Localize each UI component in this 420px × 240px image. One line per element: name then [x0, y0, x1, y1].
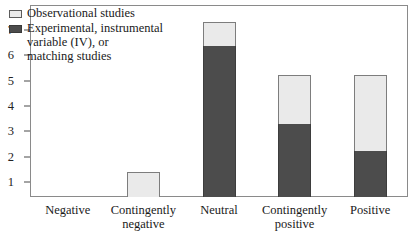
legend-label-line: matching studies	[27, 49, 163, 63]
x-tick-label: Contingentlypositive	[262, 203, 327, 231]
legend-label-line: variable (IV), or	[27, 35, 163, 49]
x-tick-label-line: Neutral	[200, 203, 237, 217]
legend-label-line: Observational studies	[27, 6, 135, 20]
x-tick-label: Neutral	[200, 203, 237, 217]
x-tick-label-line: Contingently	[111, 203, 176, 217]
legend-item: Observational studies	[9, 6, 199, 20]
legend-label-line: Experimental, instrumental	[27, 21, 163, 35]
legend-label: Experimental, instrumentalvariable (IV),…	[27, 21, 163, 63]
y-tick-label: 5	[8, 74, 14, 87]
bar-neutral	[203, 22, 236, 197]
x-tick-label-line: Positive	[350, 203, 390, 217]
stacked-bar-chart: 7654321 NegativeContingentlynegativeNeut…	[0, 0, 420, 240]
bar-segment-observational	[127, 172, 160, 197]
bar-segment-observational	[354, 75, 387, 151]
legend-label: Observational studies	[27, 6, 135, 20]
bar-contingently-positive	[278, 75, 311, 197]
bar-segment-experimental	[278, 124, 311, 197]
x-tick-label-line: negative	[111, 217, 176, 231]
y-tick-label: 4	[8, 100, 14, 113]
x-tick-label: Positive	[350, 203, 390, 217]
x-tick-label-line: positive	[262, 217, 327, 231]
bar-segment-experimental	[354, 151, 387, 197]
legend-item: Experimental, instrumentalvariable (IV),…	[9, 21, 199, 63]
chart-legend: Observational studiesExperimental, instr…	[9, 6, 199, 64]
y-tick-label: 2	[8, 150, 14, 163]
bar-positive	[354, 75, 387, 197]
x-tick-label-line: Negative	[45, 203, 90, 217]
bar-contingently-negative	[127, 172, 160, 197]
legend-swatch-light	[9, 10, 22, 18]
x-tick-label: Contingentlynegative	[111, 203, 176, 231]
bar-segment-observational	[203, 22, 236, 46]
x-tick-label-line: Contingently	[262, 203, 327, 217]
y-tick-label: 3	[8, 125, 14, 138]
bar-segment-observational	[278, 75, 311, 123]
y-tick-label: 1	[8, 176, 14, 189]
bar-segment-experimental	[203, 46, 236, 197]
x-axis: NegativeContingentlynegativeNeutralConti…	[30, 199, 408, 239]
legend-swatch-dark	[9, 25, 22, 33]
x-tick-label: Negative	[45, 203, 90, 217]
